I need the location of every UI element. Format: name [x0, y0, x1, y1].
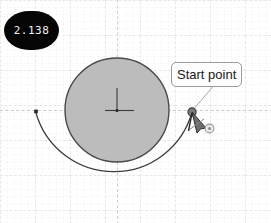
start-point-tooltip-label: Start point: [177, 67, 236, 82]
dimension-value-text: 2.138: [14, 25, 50, 36]
start-point-tooltip: Start point: [171, 62, 242, 87]
sketch-canvas[interactable]: 2.138 Start point: [0, 0, 271, 223]
arc-end-point[interactable]: [34, 110, 38, 114]
dimension-value-badge[interactable]: 2.138: [4, 11, 59, 50]
